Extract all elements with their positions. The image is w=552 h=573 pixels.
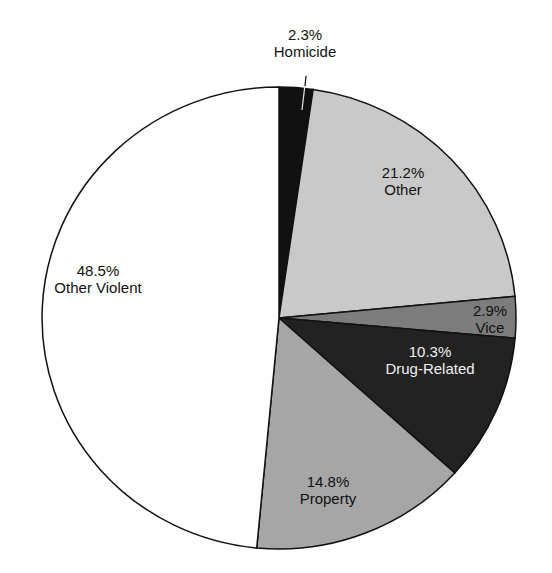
pie-chart: 2.3%Homicide21.2%Other2.9%Vice10.3%Drug-… (0, 0, 552, 573)
pie-slice-other-violent (42, 87, 279, 548)
slice-label: 21.2%Other (382, 164, 425, 198)
pie-slice-other (279, 89, 515, 318)
slice-label: 2.9%Vice (473, 302, 507, 336)
pie-slices (42, 87, 516, 549)
slice-label: 14.8%Property (300, 473, 357, 507)
slice-label: 2.3%Homicide (274, 26, 337, 60)
